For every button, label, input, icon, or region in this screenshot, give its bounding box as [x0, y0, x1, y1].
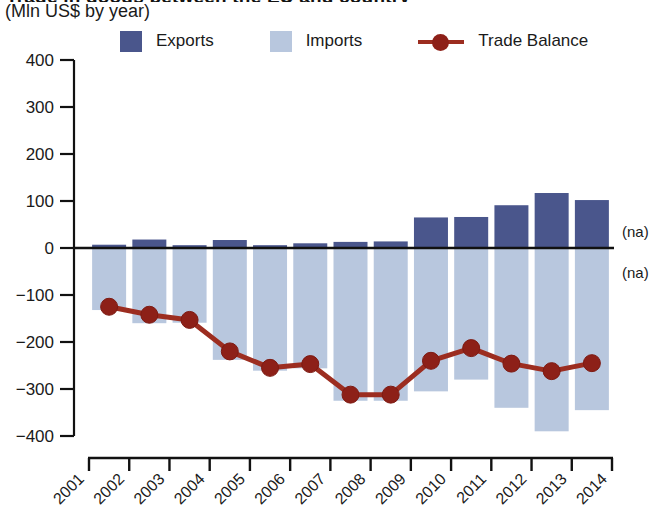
- bar-imports: [253, 248, 287, 371]
- x-axis-tick-label: 2007: [291, 470, 328, 507]
- annotation-na-below: (na): [622, 264, 649, 281]
- bar-imports: [535, 248, 569, 431]
- x-axis-tick-label: 2012: [492, 470, 529, 507]
- y-axis-tick-label: −200: [16, 333, 54, 352]
- bar-exports: [132, 240, 166, 248]
- bar-imports: [454, 248, 488, 380]
- y-axis-tick-label: 400: [26, 51, 54, 70]
- trade-balance-marker: [463, 340, 480, 357]
- y-axis-tick-label: 200: [26, 145, 54, 164]
- trade-balance-marker: [342, 386, 359, 403]
- y-axis-tick-label: −400: [16, 427, 54, 446]
- bar-imports: [494, 248, 528, 408]
- bar-exports: [494, 205, 528, 248]
- trade-balance-marker: [262, 359, 279, 376]
- x-axis-tick-label: 2002: [90, 470, 127, 507]
- y-axis-tick-label: −300: [16, 380, 54, 399]
- plot-area: 4003002001000−100−200−300−400(na)(na)200…: [0, 0, 667, 513]
- x-axis-tick-label: 2005: [211, 470, 248, 507]
- x-axis-tick-label: 2009: [372, 470, 409, 507]
- bar-exports: [575, 200, 609, 248]
- x-axis-tick-label: 2003: [130, 470, 167, 507]
- y-axis-tick-label: 0: [45, 239, 54, 258]
- x-axis-tick-label: 2010: [412, 470, 449, 507]
- trade-balance-marker: [422, 352, 439, 369]
- trade-chart: Trade in goods between the EU and countr…: [0, 0, 667, 513]
- trade-balance-marker: [503, 355, 520, 372]
- y-axis-tick-label: −100: [16, 286, 54, 305]
- bar-exports: [454, 217, 488, 248]
- trade-balance-marker: [141, 306, 158, 323]
- y-axis-tick-label: 300: [26, 98, 54, 117]
- x-axis-tick-label: 2001: [50, 470, 87, 507]
- bar-exports: [414, 217, 448, 248]
- annotation-na-above: (na): [622, 223, 649, 240]
- bar-imports: [374, 248, 408, 401]
- x-axis-tick-label: 2013: [533, 470, 570, 507]
- trade-balance-marker: [101, 298, 118, 315]
- trade-balance-marker: [543, 363, 560, 380]
- trade-balance-marker: [382, 386, 399, 403]
- trade-balance-marker: [302, 356, 319, 373]
- x-axis-tick-label: 2006: [251, 470, 288, 507]
- x-axis-tick-label: 2004: [171, 470, 208, 507]
- trade-balance-marker: [221, 343, 238, 360]
- y-axis-tick-label: 100: [26, 192, 54, 211]
- bar-exports: [535, 193, 569, 248]
- x-axis-tick-label: 2014: [573, 470, 610, 507]
- bar-imports: [334, 248, 368, 401]
- bar-imports: [575, 248, 609, 410]
- trade-balance-marker: [583, 355, 600, 372]
- trade-balance-marker: [181, 311, 198, 328]
- x-axis-tick-label: 2011: [453, 470, 489, 506]
- bar-imports: [293, 248, 327, 368]
- chart-canvas: 4003002001000−100−200−300−400(na)(na)200…: [0, 0, 667, 513]
- x-axis-tick-label: 2008: [332, 470, 369, 507]
